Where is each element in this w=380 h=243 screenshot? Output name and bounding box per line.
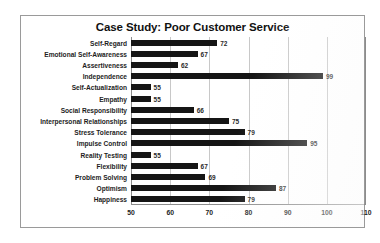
chart-frame: Case Study: Poor Customer Service Self-R… bbox=[20, 15, 365, 228]
category-label: Interpersonal Relationships bbox=[40, 117, 127, 124]
category-label: Impulse Control bbox=[77, 140, 127, 147]
category-label: Empathy bbox=[99, 95, 127, 102]
bar bbox=[131, 73, 323, 79]
category-label: Self-Regard bbox=[90, 39, 127, 46]
bar bbox=[131, 51, 198, 57]
tick-label-100: 100 bbox=[321, 209, 332, 216]
bar-value-label: 79 bbox=[248, 129, 255, 136]
category-label: Self-Actualization bbox=[72, 84, 127, 91]
tick-label-70: 70 bbox=[206, 209, 214, 216]
bar bbox=[131, 118, 229, 124]
bar-row: Optimism87 bbox=[131, 183, 366, 194]
category-label: Social Responsibility bbox=[61, 106, 127, 113]
bar bbox=[131, 140, 307, 146]
category-label: Reality Testing bbox=[81, 151, 127, 158]
tick-label-90: 90 bbox=[284, 209, 292, 216]
bar-row: Social Responsibility66 bbox=[131, 104, 366, 115]
bar-value-label: 55 bbox=[154, 151, 161, 158]
bar-row: Stress Tolerance79 bbox=[131, 127, 366, 138]
bar bbox=[131, 174, 205, 180]
tick-label-60: 60 bbox=[166, 209, 174, 216]
tick-label-80: 80 bbox=[245, 209, 253, 216]
bar-row: Problem Solving69 bbox=[131, 171, 366, 182]
bar-value-label: 87 bbox=[279, 185, 286, 192]
bar bbox=[131, 84, 151, 90]
bar-row: Self-Actualization55 bbox=[131, 82, 366, 93]
bar-row: Emotional Self-Awareness67 bbox=[131, 48, 366, 59]
bar bbox=[131, 62, 178, 68]
bar-value-label: 99 bbox=[326, 73, 333, 80]
tick-label-110: 110 bbox=[361, 209, 372, 216]
plot-area: Self-Regard72Emotional Self-Awareness67A… bbox=[131, 37, 366, 205]
bar-value-label: 66 bbox=[197, 106, 204, 113]
category-label: Happiness bbox=[94, 196, 127, 203]
bar bbox=[131, 163, 198, 169]
bar bbox=[131, 129, 245, 135]
category-label: Assertiveness bbox=[82, 61, 127, 68]
category-label: Independence bbox=[83, 73, 127, 80]
bar bbox=[131, 152, 151, 158]
bar-row: Happiness79 bbox=[131, 194, 366, 205]
chart-title: Case Study: Poor Customer Service bbox=[21, 21, 364, 33]
bar-value-label: 75 bbox=[232, 117, 239, 124]
bar bbox=[131, 40, 217, 46]
bar bbox=[131, 185, 276, 191]
category-label: Optimism bbox=[97, 185, 127, 192]
bar-value-label: 95 bbox=[310, 140, 317, 147]
bar-row: Assertiveness62 bbox=[131, 59, 366, 70]
bar-row: Empathy55 bbox=[131, 93, 366, 104]
category-label: Stress Tolerance bbox=[74, 129, 127, 136]
bar-value-label: 67 bbox=[201, 162, 208, 169]
bar-value-label: 55 bbox=[154, 84, 161, 91]
category-label: Flexibility bbox=[97, 162, 127, 169]
bar bbox=[131, 196, 245, 202]
tick-label-50: 50 bbox=[127, 209, 135, 216]
bar-row: Reality Testing55 bbox=[131, 149, 366, 160]
bar-row: Impulse Control95 bbox=[131, 138, 366, 149]
bar-value-label: 55 bbox=[154, 95, 161, 102]
bar-row: Independence99 bbox=[131, 71, 366, 82]
bar-value-label: 62 bbox=[181, 61, 188, 68]
bar-row: Flexibility67 bbox=[131, 160, 366, 171]
bar-value-label: 67 bbox=[201, 50, 208, 57]
bar-value-label: 72 bbox=[220, 39, 227, 46]
bar bbox=[131, 96, 151, 102]
bar-value-label: 79 bbox=[248, 196, 255, 203]
category-label: Problem Solving bbox=[75, 173, 127, 180]
bar-value-label: 69 bbox=[208, 173, 215, 180]
bar bbox=[131, 107, 194, 113]
bar-row: Interpersonal Relationships75 bbox=[131, 115, 366, 126]
bar-row: Self-Regard72 bbox=[131, 37, 366, 48]
category-label: Emotional Self-Awareness bbox=[44, 50, 127, 57]
